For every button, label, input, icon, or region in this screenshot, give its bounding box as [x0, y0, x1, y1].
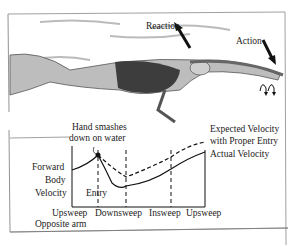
reaction-label: Reaction	[146, 21, 180, 32]
ylabel-line2: Body	[45, 175, 66, 186]
legend-actual: Actual Velocity	[210, 149, 269, 160]
entry-label: Entry	[86, 188, 107, 199]
diagram-frame: Reaction Action Hand smashes down on wat…	[0, 0, 295, 247]
phase-downsweep: Downsweep	[95, 208, 142, 219]
annotation-line2: down on water	[69, 133, 125, 144]
actual-velocity-line	[72, 152, 205, 187]
phase-opposite-arm: Opposite arm	[35, 219, 86, 230]
ylabel-line1: Forward	[32, 162, 64, 173]
legend-expected-line1: Expected Velocity	[210, 124, 279, 135]
expected-velocity-line	[98, 142, 205, 177]
annotation-line1: Hand smashes	[72, 122, 127, 133]
phase-upsweep: Upsweep	[186, 208, 221, 219]
legend-expected-line2: with Proper Entry	[210, 136, 278, 147]
action-label: Action	[236, 36, 262, 47]
phase-insweep: Insweep	[149, 208, 181, 219]
phase-upsweep-opposite: Upsweep	[52, 208, 87, 219]
ylabel-line3: Velocity	[35, 188, 67, 199]
